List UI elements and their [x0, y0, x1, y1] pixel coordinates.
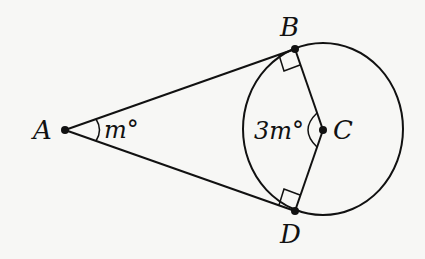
- angle-arc-c: [308, 113, 317, 147]
- label-b: B: [279, 12, 299, 42]
- angle-label-c: 3m°: [254, 117, 304, 145]
- angle-label-a: m°: [104, 116, 139, 144]
- point-d: [291, 207, 299, 215]
- diagram-canvas: A B C D m° 3m°: [0, 0, 425, 259]
- label-c: C: [333, 115, 353, 145]
- label-a: A: [31, 115, 52, 145]
- angle-arc-a: [96, 119, 100, 141]
- point-b: [291, 45, 299, 53]
- point-c: [319, 126, 327, 134]
- tangent-circle-diagram: A B C D m° 3m°: [0, 0, 425, 259]
- label-d: D: [279, 219, 301, 249]
- point-a: [61, 126, 69, 134]
